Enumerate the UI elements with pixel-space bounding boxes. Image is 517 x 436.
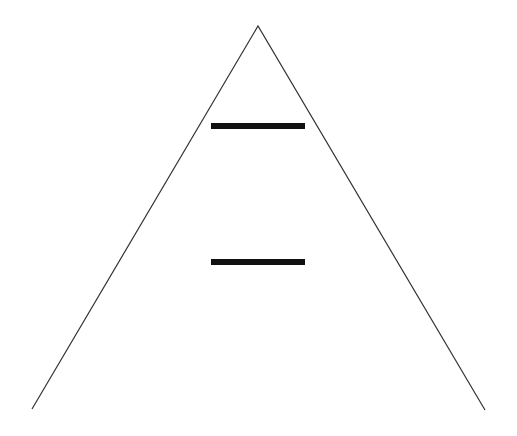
triangle-diagram: [0, 0, 517, 436]
triangle-outline: [32, 26, 485, 410]
